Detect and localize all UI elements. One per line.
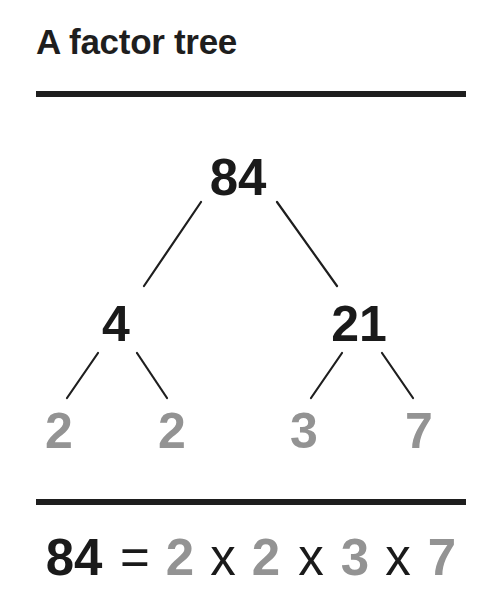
tree-node-4: 4 (102, 299, 130, 349)
tree-node-root: 84 (210, 152, 267, 203)
times-sign-1: x (210, 532, 236, 583)
equation-factor-3: 3 (341, 532, 369, 583)
tree-leaf-prime-2a: 2 (45, 406, 73, 456)
tree-edges (0, 0, 490, 611)
equation-factor-1: 2 (166, 532, 194, 583)
equation-factor-2: 2 (252, 532, 280, 583)
times-sign-3: x (385, 532, 411, 583)
tree-node-21: 21 (331, 299, 387, 349)
equals-sign: = (120, 532, 150, 583)
edge-21-3 (311, 353, 342, 398)
factorization-equation: 84 = 2 x 2 x 3 x 7 (0, 532, 490, 592)
edge-4-2a (67, 353, 98, 398)
equation-number: 84 (46, 532, 103, 583)
tree-leaf-prime-3: 3 (290, 406, 318, 456)
tree-leaf-prime-7: 7 (405, 406, 433, 456)
edge-21-7 (382, 353, 413, 398)
edge-84-21 (277, 202, 337, 286)
bottom-divider (36, 499, 466, 505)
edge-4-2b (137, 353, 167, 398)
tree-leaf-prime-2b: 2 (158, 406, 186, 456)
edge-84-4 (144, 202, 201, 286)
equation-factor-4: 7 (428, 532, 456, 583)
times-sign-2: x (298, 532, 324, 583)
